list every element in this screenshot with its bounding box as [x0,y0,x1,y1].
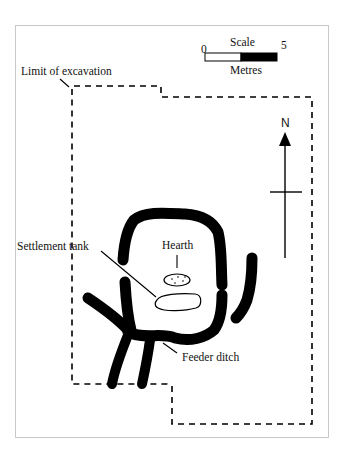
scale-end-label: 5 [281,40,287,52]
hearth-label: Hearth [162,240,193,252]
north-arrow-icon [270,132,302,258]
hearth-feature [164,255,190,286]
feeder-ditch-label: Feeder ditch [182,352,239,364]
scale-start-label: 0 [201,44,207,56]
north-label: N [281,117,290,129]
settlement-tank-label: Settlement tank [17,241,89,253]
scale-unit-label: Metres [230,65,262,77]
excavation-boundary [72,86,312,424]
scale-title: Scale [230,37,255,49]
scale-bar [205,53,277,61]
limit-of-excavation-label: Limit of excavation [21,66,112,78]
feeder-ditch-leader [163,343,177,353]
limit-leader-line [60,79,69,87]
